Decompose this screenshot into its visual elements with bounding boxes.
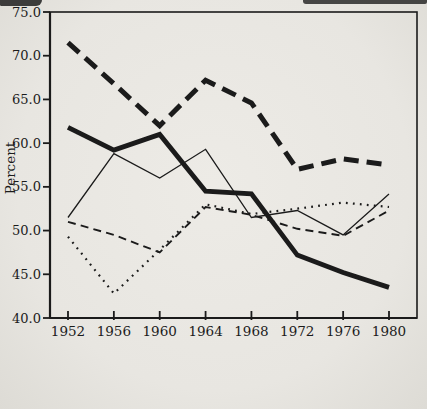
series-line-midwest: [68, 207, 389, 252]
line-chart: 40.045.050.055.060.065.070.075.0Percent1…: [0, 0, 427, 352]
scanned-figure: 40.045.050.055.060.065.070.075.0Percent1…: [0, 0, 427, 409]
y-tick-label: 45.0: [12, 267, 41, 282]
series-line-northeast: [68, 203, 389, 294]
y-axis-title: Percent: [2, 141, 18, 194]
y-tick-label: 70.0: [12, 48, 41, 63]
x-tick-label: 1960: [143, 323, 177, 339]
x-tick-label: 1952: [51, 323, 85, 339]
y-tick-label: 50.0: [12, 223, 41, 238]
x-tick-label: 1956: [97, 323, 131, 339]
x-tick-label: 1964: [188, 323, 222, 339]
x-tick-label: 1976: [326, 323, 360, 339]
y-tick-label: 40.0: [12, 311, 41, 326]
x-tick-label: 1972: [280, 323, 314, 339]
chart-key: Key: NortheastMidwestSouthMountainPacifi…: [0, 352, 427, 409]
x-tick-label: 1980: [372, 323, 406, 339]
y-tick-label: 65.0: [12, 92, 41, 107]
series-line-mountain: [68, 127, 389, 287]
y-tick-label: 75.0: [12, 5, 41, 20]
x-tick-label: 1968: [234, 323, 268, 339]
